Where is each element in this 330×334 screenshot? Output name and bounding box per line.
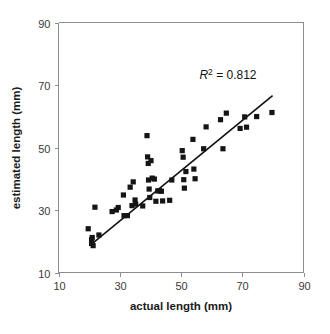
data-points — [86, 110, 275, 248]
data-point — [180, 148, 185, 153]
data-point — [133, 201, 138, 206]
data-point — [92, 205, 97, 210]
data-point — [116, 205, 121, 210]
y-tick-label-10: 10 — [38, 268, 50, 280]
data-point — [182, 186, 187, 191]
plot-canvas: 1030507090 1030507090 R2 = 0.812 actual … — [0, 0, 330, 334]
data-point — [147, 186, 152, 191]
data-point — [86, 226, 91, 231]
data-point — [169, 177, 174, 182]
data-point — [181, 177, 186, 182]
data-point — [218, 117, 223, 122]
data-point — [90, 235, 95, 240]
data-point — [191, 166, 196, 171]
x-tick-label-90: 90 — [298, 280, 310, 292]
data-point — [254, 114, 259, 119]
data-point — [244, 125, 249, 130]
data-point — [140, 203, 145, 208]
y-tick-label-90: 90 — [38, 18, 50, 30]
data-point — [190, 137, 195, 142]
y-tick-label-70: 70 — [38, 80, 50, 92]
data-point — [128, 185, 133, 190]
r-squared-annotation: R2 = 0.812 — [199, 67, 256, 82]
data-point — [159, 189, 164, 194]
data-point — [269, 110, 274, 115]
x-tick-label-70: 70 — [236, 280, 248, 292]
x-tick-label-30: 30 — [114, 280, 126, 292]
data-point — [131, 179, 136, 184]
y-tick-label-50: 50 — [38, 143, 50, 155]
data-point — [204, 124, 209, 129]
x-tick-label-10: 10 — [53, 280, 65, 292]
data-point — [242, 114, 247, 119]
data-point — [152, 176, 157, 181]
data-point — [160, 198, 165, 203]
data-point — [144, 133, 149, 138]
data-point — [96, 232, 101, 237]
data-point — [147, 195, 152, 200]
data-point — [192, 176, 197, 181]
y-axis-tick-marks — [55, 24, 59, 274]
x-axis-tick-labels: 1030507090 — [53, 280, 310, 292]
y-tick-label-30: 30 — [38, 205, 50, 217]
x-tick-label-50: 50 — [175, 280, 187, 292]
data-point — [181, 155, 186, 160]
data-point — [224, 111, 229, 116]
data-point — [148, 158, 153, 163]
data-point — [91, 243, 96, 248]
x-axis-tick-marks — [60, 273, 305, 277]
data-point — [121, 192, 126, 197]
y-axis-title: estimated length (mm) — [10, 86, 22, 209]
data-point — [153, 199, 158, 204]
scatter-plot-figure: 1030507090 1030507090 R2 = 0.812 actual … — [0, 0, 330, 334]
data-point — [167, 198, 172, 203]
data-point — [183, 169, 188, 174]
data-point — [238, 126, 243, 131]
y-axis-tick-labels: 1030507090 — [38, 18, 50, 280]
data-point — [201, 146, 206, 151]
x-axis-title: actual length (mm) — [130, 300, 232, 312]
data-point — [220, 146, 225, 151]
axis-frame — [59, 23, 304, 273]
data-point — [125, 213, 130, 218]
